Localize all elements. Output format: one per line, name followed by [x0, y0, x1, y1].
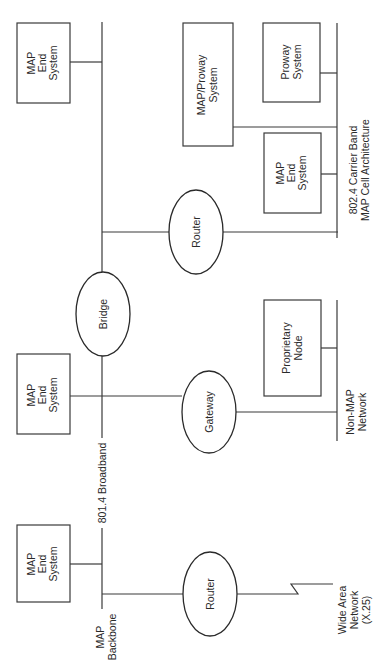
carrier-band-label: 802.4 Carrier Band MAP Cell Architecture	[347, 119, 371, 221]
svg-text:MAP Cell Architecture: MAP Cell Architecture	[359, 119, 371, 221]
svg-text:System: System	[47, 45, 59, 80]
svg-text:System: System	[207, 67, 219, 102]
end-system-mid[interactable]: MAP End System	[17, 354, 182, 434]
proway-system[interactable]: Proway System	[263, 23, 337, 102]
svg-text:Proway: Proway	[279, 44, 291, 80]
svg-text:Bridge: Bridge	[97, 299, 109, 330]
svg-text:MAP: MAP	[94, 626, 106, 649]
end-system-bottom[interactable]: MAP End System	[17, 525, 102, 602]
router-wan[interactable]: Router	[183, 552, 237, 636]
svg-text:Proprietary: Proprietary	[280, 322, 292, 374]
svg-text:Network: Network	[348, 590, 360, 629]
svg-text:System: System	[296, 155, 308, 190]
broadband-label: 801.4 Broadband	[96, 443, 108, 524]
svg-text:Router: Router	[204, 578, 216, 610]
svg-text:Gateway: Gateway	[203, 391, 215, 433]
proprietary-node[interactable]: Proprietary Node	[264, 300, 337, 396]
gateway[interactable]: Gateway	[182, 371, 236, 453]
svg-text:MAP/Proway: MAP/Proway	[195, 54, 207, 115]
bridge[interactable]: Bridge	[76, 272, 130, 356]
svg-text:802.4 Carrier Band: 802.4 Carrier Band	[347, 125, 359, 214]
router-cell[interactable]: Router	[169, 190, 223, 274]
svg-text:Wide Area: Wide Area	[336, 586, 348, 635]
svg-text:Network: Network	[356, 392, 368, 431]
wan-label: Wide Area Network (X.25)	[336, 586, 372, 635]
svg-text:Node: Node	[292, 335, 304, 360]
end-system-top[interactable]: MAP End System	[17, 23, 102, 103]
end-system-cell[interactable]: MAP End System	[264, 133, 337, 213]
svg-text:System: System	[47, 546, 59, 581]
svg-text:Backbone: Backbone	[106, 613, 118, 660]
svg-text:Non-MAP: Non-MAP	[344, 389, 356, 435]
svg-text:(X.25): (X.25)	[360, 596, 372, 625]
svg-text:System: System	[291, 44, 303, 79]
backbone-label: MAP Backbone	[94, 613, 118, 660]
svg-text:System: System	[47, 377, 59, 412]
non-map-label: Non-MAP Network	[344, 389, 368, 435]
wan-link-zigzag-icon	[237, 584, 333, 594]
svg-text:Router: Router	[190, 216, 202, 248]
map-network-diagram: 801.4 Broadband MAP Backbone MAP End Sys…	[0, 0, 392, 669]
